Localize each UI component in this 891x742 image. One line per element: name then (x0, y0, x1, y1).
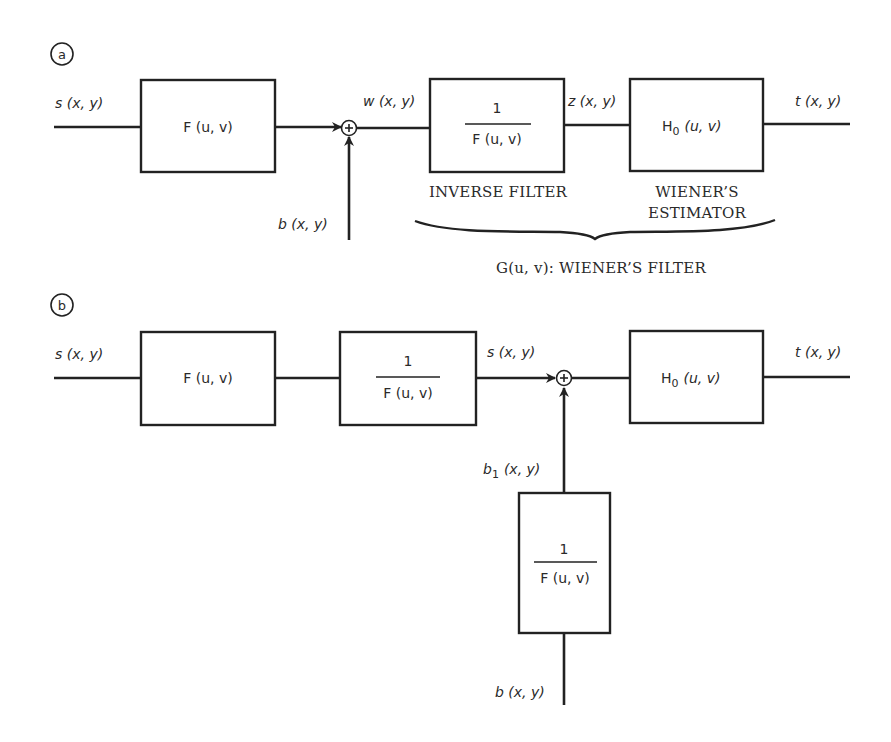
summing-junction (342, 121, 357, 136)
grouping-brace (415, 220, 775, 239)
panel-b-tag: b (51, 294, 73, 316)
panel-a-tag: a (51, 43, 73, 65)
noise-inverse-block (519, 493, 610, 633)
inverse-denominator: F (u, v) (472, 131, 522, 147)
wiener-filter-caption: G(u, v): WIENER’S FILTER (496, 259, 706, 277)
b1-label: b1(x, y) (483, 461, 540, 481)
svg-text:F (u, v): F (u, v) (183, 370, 233, 386)
summing-junction-b (557, 371, 572, 386)
input-signal-label-b: s (x, y) (55, 346, 103, 362)
svg-text:b: b (58, 298, 66, 313)
input-signal-label: s (x, y) (55, 95, 103, 111)
output-label: t (x, y) (795, 93, 841, 109)
noise-label: b (x, y) (278, 216, 328, 232)
panel-b: b s (x, y) F (u, v) 1 F (u, v) s (x, y) … (51, 294, 850, 705)
inverse-filter-block (430, 79, 564, 172)
svg-text:1: 1 (404, 353, 413, 369)
svg-text:a: a (58, 47, 66, 62)
svg-text:F (u, v): F (u, v) (540, 570, 590, 586)
inverse-filter-block-b (340, 332, 476, 425)
z-label: z (x, y) (567, 93, 616, 109)
w-label: w (x, y) (363, 93, 415, 109)
inverse-numerator: 1 (493, 100, 502, 116)
inverse-filter-caption: INVERSE FILTER (429, 183, 568, 201)
panel-a: a s (x, y) F (u, v) b (x, y) w (x, y) 1 … (51, 43, 850, 277)
block-diagram: a s (x, y) F (u, v) b (x, y) w (x, y) 1 … (0, 0, 891, 742)
wiener-caption-2: ESTIMATOR (648, 204, 746, 222)
svg-text:F (u, v): F (u, v) (383, 385, 433, 401)
svg-text:1: 1 (560, 541, 569, 557)
noise-label-b: b (x, y) (495, 684, 545, 700)
wiener-caption-1: WIENER’S (655, 183, 739, 201)
s-label-b: s (x, y) (487, 344, 535, 360)
output-label-b: t (x, y) (795, 344, 841, 360)
degradation-block-label: F (u, v) (183, 119, 233, 135)
